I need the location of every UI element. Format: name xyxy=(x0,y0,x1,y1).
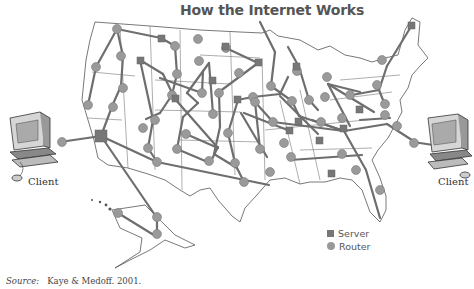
server-node xyxy=(158,35,165,42)
server-node xyxy=(340,125,347,132)
router-node xyxy=(173,145,182,154)
router-node xyxy=(251,98,260,107)
router-node xyxy=(231,159,240,168)
server-node xyxy=(222,43,229,50)
source-note: Source: Kaye & Medoff. 2001. xyxy=(6,276,141,286)
hawaii-islands xyxy=(91,199,112,211)
left-client-computer xyxy=(10,112,58,181)
server-node xyxy=(356,106,363,113)
router-node xyxy=(198,89,207,98)
router-node xyxy=(144,144,153,153)
router-node xyxy=(376,186,385,195)
us-network-map xyxy=(0,0,474,289)
legend: Server Router xyxy=(327,227,370,253)
right-client-label: Client xyxy=(438,176,468,187)
legend-server: Server xyxy=(327,227,370,239)
router-node xyxy=(266,168,275,177)
server-node xyxy=(286,127,293,134)
server-node xyxy=(234,96,241,103)
server-node xyxy=(95,130,107,142)
router-node xyxy=(338,114,347,123)
router-node xyxy=(119,84,128,93)
router-node xyxy=(346,91,355,100)
left-client-label: Client xyxy=(28,176,58,187)
router-node xyxy=(373,81,382,90)
router-node xyxy=(352,166,361,175)
server-node xyxy=(328,170,335,177)
router-node xyxy=(338,150,347,159)
router-node xyxy=(209,110,218,119)
router-node xyxy=(153,158,162,167)
router-node xyxy=(235,69,244,78)
router-node xyxy=(240,178,249,187)
router-node xyxy=(224,129,233,138)
server-node xyxy=(137,57,144,64)
server-node xyxy=(172,95,179,102)
legend-router: Router xyxy=(327,240,370,252)
router-node xyxy=(381,111,390,120)
router-node xyxy=(280,139,289,148)
router-node xyxy=(58,138,67,147)
server-node xyxy=(255,59,262,66)
server-node xyxy=(293,63,300,70)
router-node xyxy=(195,57,204,66)
router-node xyxy=(109,103,118,112)
router-node xyxy=(256,145,265,154)
server-square-icon xyxy=(327,230,334,237)
right-client-computer xyxy=(428,114,472,178)
router-node xyxy=(269,118,278,127)
router-node xyxy=(151,116,160,125)
router-node xyxy=(321,93,330,102)
legend-router-label: Router xyxy=(339,241,370,252)
router-node xyxy=(171,42,180,51)
router-node xyxy=(84,101,93,110)
router-node xyxy=(323,73,332,82)
router-node xyxy=(182,130,191,139)
server-node xyxy=(295,118,302,125)
router-node xyxy=(153,213,162,222)
source-text: Kaye & Medoff. 2001. xyxy=(47,276,141,286)
router-node xyxy=(287,153,296,162)
router-node xyxy=(113,25,122,34)
router-node xyxy=(410,139,419,148)
router-node xyxy=(173,70,182,79)
router-node xyxy=(393,122,402,131)
router-node xyxy=(139,124,148,133)
router-node xyxy=(288,97,297,106)
server-node xyxy=(209,77,216,84)
legend-server-label: Server xyxy=(338,228,369,239)
router-node xyxy=(194,35,203,44)
server-node xyxy=(316,137,323,144)
router-node xyxy=(153,230,162,239)
router-node xyxy=(117,52,126,61)
router-node xyxy=(267,82,276,91)
source-prefix: Source: xyxy=(6,276,39,286)
router-node xyxy=(205,157,214,166)
router-node xyxy=(317,118,326,127)
router-node xyxy=(381,100,390,109)
server-node xyxy=(408,22,415,29)
router-node xyxy=(378,56,387,65)
router-node xyxy=(114,209,123,218)
router-circle-icon xyxy=(327,242,335,250)
router-node xyxy=(92,63,101,72)
router-node xyxy=(305,96,314,105)
router-node xyxy=(215,89,224,98)
